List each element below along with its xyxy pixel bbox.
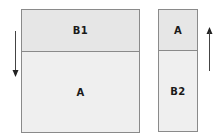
left-block: B1 A <box>21 9 140 133</box>
left-block-bottom-section: A <box>22 52 139 132</box>
left-block-top-section: B1 <box>22 10 139 51</box>
left-bottom-label: A <box>76 87 84 98</box>
right-bottom-label: B2 <box>170 86 186 97</box>
right-top-label: A <box>174 25 182 36</box>
up-arrow-icon <box>205 26 214 72</box>
right-block: A B2 <box>158 9 198 132</box>
down-arrow-icon <box>11 30 20 78</box>
right-block-top-section: A <box>159 10 197 50</box>
right-block-bottom-section: B2 <box>159 51 197 131</box>
left-top-label: B1 <box>73 25 89 36</box>
